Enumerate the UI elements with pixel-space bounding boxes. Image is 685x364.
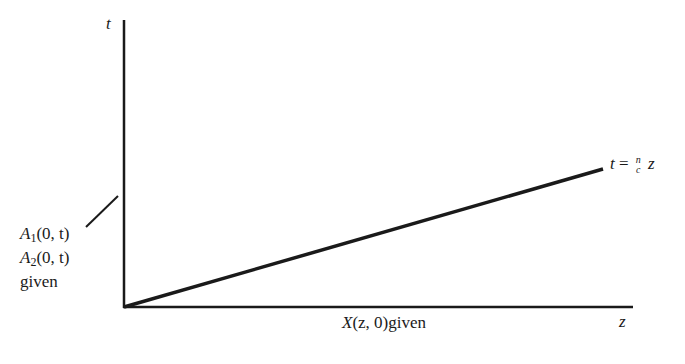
a1-args: (0, t) — [36, 224, 69, 243]
line-label-fraction: n c — [636, 155, 641, 175]
z-axis-label: z — [619, 312, 626, 332]
line-label-rhs: z — [648, 154, 655, 173]
fraction-denominator: c — [636, 165, 640, 175]
line-label-eq: = — [619, 154, 629, 173]
a2-args: (0, t) — [36, 248, 69, 267]
characteristic-line-label: t = n c z — [610, 154, 655, 175]
a2-var: A — [20, 248, 30, 267]
line-label-lhs: t — [610, 154, 615, 173]
initial-args: (z, 0) — [352, 313, 388, 332]
boundary-a1: A1(0, t) — [20, 224, 69, 248]
initial-condition-label: X(z, 0)given — [342, 313, 426, 333]
boundary-a2: A2(0, t) — [20, 248, 69, 272]
diagram-canvas — [0, 0, 685, 364]
leader-line — [86, 196, 118, 227]
boundary-given: given — [20, 272, 69, 292]
boundary-condition-label: A1(0, t) A2(0, t) given — [20, 224, 69, 292]
initial-given: given — [388, 313, 426, 332]
t-axis-label: t — [106, 14, 111, 34]
characteristic-line — [124, 169, 603, 307]
initial-var: X — [342, 313, 352, 332]
a1-var: A — [20, 224, 30, 243]
